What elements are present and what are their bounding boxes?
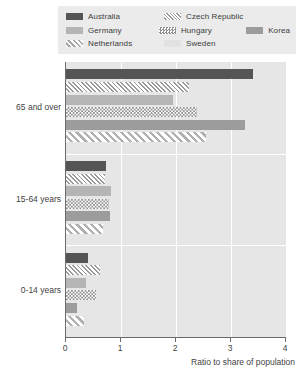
bar-czech-republic-0-14-years <box>66 265 100 275</box>
bar-korea-65-and-over <box>66 120 245 130</box>
bar-germany-65-and-over <box>66 95 173 105</box>
x-tick-label-1: 1 <box>118 343 123 353</box>
legend-item-sweden: Sweden <box>164 39 256 48</box>
x-tick-mark <box>120 338 121 342</box>
bar-netherlands-0-14-years <box>66 316 84 326</box>
legend-swatch-australia <box>66 13 83 20</box>
bar-germany-15-64-years <box>66 186 111 196</box>
legend-item-korea: Korea <box>246 26 290 35</box>
chart-root: Australia Czech Republic Germany Hungary… <box>0 0 299 377</box>
chart-legend: Australia Czech Republic Germany Hungary… <box>58 6 296 54</box>
legend-swatch-netherlands <box>66 40 83 47</box>
legend-label-germany: Germany <box>88 26 122 35</box>
legend-swatch-korea <box>246 27 263 34</box>
legend-label-czech-republic: Czech Republic <box>186 12 243 21</box>
x-axis-title: Ratio to share of population <box>0 357 295 367</box>
bar-hungary-15-64-years <box>66 199 109 209</box>
x-tick-label-4: 4 <box>283 343 288 353</box>
y-axis-label-65-and-over: 65 and over <box>1 102 61 112</box>
legend-item-germany: Germany <box>66 26 159 35</box>
legend-label-korea: Korea <box>268 26 290 35</box>
legend-row: Germany Hungary Korea <box>66 24 290 38</box>
bar-netherlands-15-64-years <box>66 224 103 234</box>
bar-germany-0-14-years <box>66 278 86 288</box>
x-tick-label-2: 2 <box>173 343 178 353</box>
x-tick-mark <box>175 338 176 342</box>
legend-swatch-germany <box>66 27 83 34</box>
gridline <box>231 62 232 337</box>
bar-netherlands-65-and-over <box>66 132 206 142</box>
bar-hungary-65-and-over <box>66 107 197 117</box>
group-separator <box>66 154 286 155</box>
x-tick-mark <box>230 338 231 342</box>
legend-label-australia: Australia <box>88 12 120 21</box>
legend-item-australia: Australia <box>66 12 164 21</box>
legend-label-netherlands: Netherlands <box>88 39 132 48</box>
bar-australia-0-14-years <box>66 253 88 263</box>
legend-row: Netherlands Sweden <box>66 37 290 51</box>
legend-swatch-sweden <box>164 40 181 47</box>
plot-area <box>65 62 286 338</box>
gridline <box>286 62 287 337</box>
legend-swatch-czech-republic <box>164 13 181 20</box>
legend-item-hungary: Hungary <box>159 26 246 35</box>
y-axis-label-0-14-years: 0-14 years <box>1 285 61 295</box>
x-tick-label-3: 3 <box>228 343 233 353</box>
legend-label-hungary: Hungary <box>181 26 212 35</box>
gridline <box>176 62 177 337</box>
legend-label-sweden: Sweden <box>186 39 216 48</box>
legend-row: Australia Czech Republic <box>66 10 290 24</box>
legend-item-netherlands: Netherlands <box>66 39 164 48</box>
x-tick-mark <box>65 338 66 342</box>
bar-czech-republic-15-64-years <box>66 174 105 184</box>
legend-item-czech-republic: Czech Republic <box>164 12 256 21</box>
bar-korea-15-64-years <box>66 211 110 221</box>
x-tick-mark <box>285 338 286 342</box>
bar-czech-republic-65-and-over <box>66 82 189 92</box>
bar-australia-15-64-years <box>66 161 106 171</box>
bar-australia-65-and-over <box>66 69 253 79</box>
bar-korea-0-14-years <box>66 303 77 313</box>
group-separator <box>66 245 286 246</box>
y-axis-label-15-64-years: 15-64 years <box>1 194 61 204</box>
bar-hungary-0-14-years <box>66 290 96 300</box>
x-tick-label-0: 0 <box>63 343 68 353</box>
legend-swatch-hungary <box>159 27 176 34</box>
